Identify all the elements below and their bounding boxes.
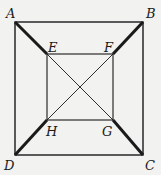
segment-BF [113, 22, 143, 54]
label-E: E [47, 40, 58, 55]
label-G: G [102, 124, 112, 139]
label-D: D [3, 158, 15, 173]
label-H: H [45, 124, 58, 139]
label-B: B [145, 6, 156, 21]
label-C: C [145, 158, 155, 173]
segment-DH [15, 120, 47, 155]
segment-AE [15, 22, 47, 54]
label-A: A [5, 6, 15, 21]
label-F: F [103, 40, 114, 55]
square-diagram: A B C D E F G H [0, 0, 161, 175]
segment-CG [113, 120, 143, 155]
